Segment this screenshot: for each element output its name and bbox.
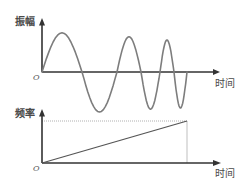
x-axis-arrow-icon (213, 160, 221, 166)
chirp-diagram: 振幅 时间 O 频率 时间 O (0, 0, 252, 194)
amplitude-panel: 振幅 时间 O (15, 15, 235, 112)
x-axis-arrow-icon (213, 69, 220, 75)
amplitude-x-label: 时间 (215, 77, 235, 89)
y-axis-arrow-icon (39, 18, 45, 26)
frequency-origin-label: O (33, 164, 40, 173)
amplitude-origin-label: O (33, 73, 40, 82)
amplitude-y-label: 振幅 (15, 15, 35, 27)
frequency-panel: 频率 时间 O (15, 107, 235, 179)
frequency-ramp-line (42, 121, 187, 163)
y-axis-arrow-icon (39, 109, 45, 117)
frequency-x-label: 时间 (215, 167, 235, 179)
frequency-y-label: 频率 (15, 107, 35, 119)
